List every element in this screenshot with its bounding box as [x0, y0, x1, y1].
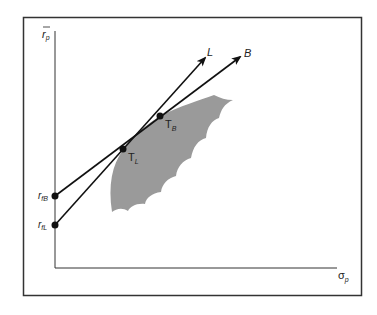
- label-rfL: rfL: [38, 219, 47, 231]
- label-line-B: B: [244, 47, 251, 59]
- y-axis-label: rp: [42, 28, 50, 42]
- point-rfB: [52, 193, 59, 200]
- x-axis-label: σp: [338, 269, 349, 284]
- point-rfL: [52, 222, 59, 229]
- point-TB: [157, 113, 164, 120]
- point-TL: [120, 146, 127, 153]
- label-line-L: L: [207, 46, 213, 58]
- tangency-diagram: rp σp rfB rfL TL TB L B: [0, 0, 377, 315]
- label-rfB: rfB: [38, 190, 48, 202]
- outer-frame: [24, 18, 362, 296]
